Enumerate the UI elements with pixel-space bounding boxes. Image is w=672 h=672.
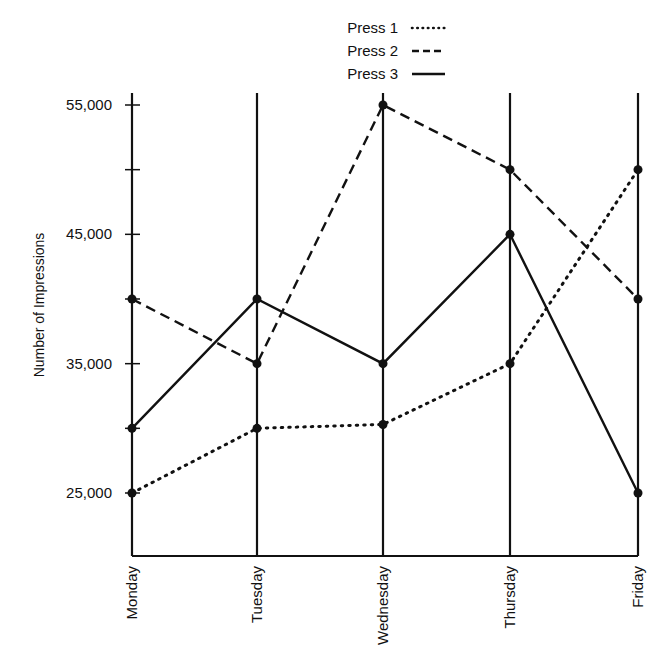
- data-point: [253, 295, 262, 304]
- data-point: [634, 295, 643, 304]
- data-point: [379, 359, 388, 368]
- data-point: [128, 489, 137, 498]
- data-point: [634, 489, 643, 498]
- legend-label: Press 2: [347, 42, 398, 59]
- x-tick-label: Monday: [123, 566, 140, 620]
- y-axis-label: Number of Impressions: [31, 233, 47, 378]
- data-point: [506, 165, 515, 174]
- legend-label: Press 3: [347, 65, 398, 82]
- line-chart: Press 1Press 2Press 3 Number of Impressi…: [0, 0, 672, 672]
- series-lines: [128, 101, 643, 498]
- y-tick-label: 25,000: [66, 484, 112, 501]
- data-point: [379, 420, 388, 429]
- x-tick-label: Tuesday: [248, 566, 265, 623]
- x-axis-labels: MondayTuesdayWednesdayThursdayFriday: [123, 566, 646, 645]
- data-point: [128, 424, 137, 433]
- series-press-2: [132, 105, 638, 364]
- legend: Press 1Press 2Press 3: [347, 19, 445, 82]
- y-tick-label: 35,000: [66, 355, 112, 372]
- x-tick-label: Wednesday: [374, 566, 391, 645]
- data-point: [379, 101, 388, 110]
- data-point: [506, 359, 515, 368]
- y-tick-label: 55,000: [66, 96, 112, 113]
- x-tick-label: Thursday: [501, 566, 518, 629]
- data-point: [634, 165, 643, 174]
- series-press-1: [132, 170, 638, 493]
- x-tick-label: Friday: [629, 566, 646, 608]
- legend-label: Press 1: [347, 19, 398, 36]
- y-tick-label: 45,000: [66, 225, 112, 242]
- axes: 25,00035,00045,00055,000: [66, 93, 638, 556]
- data-point: [253, 359, 262, 368]
- data-point: [253, 424, 262, 433]
- data-point: [506, 230, 515, 239]
- data-point: [128, 295, 137, 304]
